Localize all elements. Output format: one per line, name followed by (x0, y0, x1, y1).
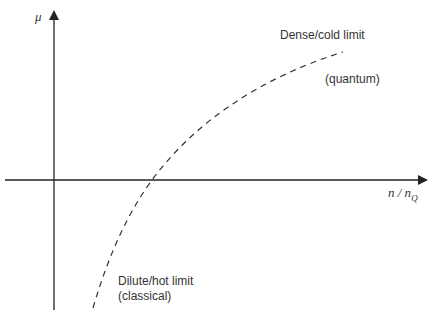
dilute-hot-limit-label: Dilute/hot limit (118, 274, 193, 288)
x-axis-label: n / nQ (388, 186, 418, 205)
y-axis-label: μ (35, 10, 42, 24)
x-axis-label-main: n / n (388, 185, 411, 200)
classical-label: (classical) (118, 289, 171, 303)
diagram-canvas (0, 0, 440, 315)
x-axis-label-subscript: Q (411, 193, 418, 203)
dense-cold-limit-label: Dense/cold limit (280, 28, 365, 42)
quantum-label: (quantum) (325, 72, 380, 86)
